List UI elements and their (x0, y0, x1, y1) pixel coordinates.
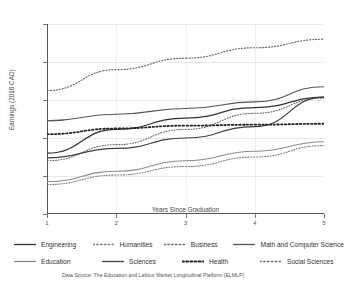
chart-legend: EngineeringHumanitiesBusinessMath and Co… (14, 236, 344, 270)
x-axis-tick (116, 214, 117, 218)
series-line (47, 39, 324, 90)
x-axis-tick-label: 3 (184, 219, 187, 226)
legend-swatch-icon (182, 258, 204, 265)
legend-swatch-icon (233, 241, 255, 248)
x-axis-tick (186, 214, 187, 218)
y-axis-title: Earnings (2016 CAD) (8, 69, 15, 130)
legend-row: EducationSciencesHealthSocial Sciences (14, 253, 344, 270)
chart-figure: Earnings (2016 CAD) 30,00050,00070,00090… (0, 0, 350, 281)
plot-area: 30,00050,00070,00090,000110,000130,00012… (47, 24, 324, 214)
series-line (47, 142, 324, 182)
legend-swatch-icon (93, 241, 115, 248)
x-axis-tick-label: 5 (322, 219, 325, 226)
x-axis-tick-label: 1 (45, 219, 48, 226)
legend-item[interactable]: Sciences (102, 258, 182, 265)
legend-label: Sciences (129, 258, 156, 265)
legend-label: Math and Computer Science (260, 241, 344, 248)
legend-label: Education (41, 258, 70, 265)
legend-row: EngineeringHumanitiesBusinessMath and Co… (14, 236, 344, 253)
legend-item[interactable]: Humanities (93, 241, 164, 248)
x-axis-tick-label: 2 (115, 219, 118, 226)
legend-item[interactable]: Engineering (14, 241, 93, 248)
legend-label: Social Sciences (287, 258, 334, 265)
legend-label: Business (191, 241, 218, 248)
legend-swatch-icon (102, 258, 124, 265)
legend-swatch-icon (164, 241, 186, 248)
legend-item[interactable]: Business (164, 241, 234, 248)
x-axis-tick (324, 214, 325, 218)
legend-swatch-icon (14, 241, 36, 248)
legend-item[interactable]: Social Sciences (260, 258, 334, 265)
x-axis-tick (47, 214, 48, 218)
legend-swatch-icon (260, 258, 282, 265)
series-layer (47, 24, 324, 214)
x-axis-tick-label: 4 (253, 219, 256, 226)
legend-label: Humanities (120, 241, 153, 248)
legend-item[interactable]: Math and Computer Science (233, 241, 344, 248)
legend-item[interactable]: Health (182, 258, 260, 265)
legend-item[interactable]: Education (14, 258, 102, 265)
legend-label: Health (209, 258, 228, 265)
series-line (47, 97, 324, 158)
x-axis-tick (255, 214, 256, 218)
legend-label: Engineering (41, 241, 76, 248)
x-axis-title: Years Since Graduation (47, 206, 324, 213)
legend-swatch-icon (14, 258, 36, 265)
data-source-footnote: Data Source: The Education and Labour Ma… (62, 272, 350, 279)
